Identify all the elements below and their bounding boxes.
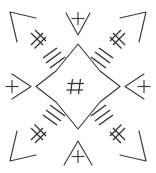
arm-bottom-right (91, 105, 146, 161)
arrowhead-down-right-icon (120, 131, 146, 161)
plus-glyph-right (138, 80, 151, 93)
center-star-enclosure (36, 44, 120, 129)
hatch-group-top-right (91, 48, 113, 68)
hatch-group-bottom-right (91, 105, 113, 125)
plus-glyph-bottom (72, 150, 85, 163)
arrowhead-down-left-icon (10, 131, 36, 161)
plus-glyph-left (6, 80, 19, 93)
arm-top-right (91, 12, 146, 68)
arm-right (125, 74, 151, 99)
arm-top (66, 12, 90, 35)
hatch-group-bottom-left (43, 105, 65, 125)
plus-glyph-top (72, 12, 85, 25)
arm-bottom-left (10, 105, 65, 161)
hatch-group-top-left (43, 48, 65, 68)
rotated-hash-glyph-bottom-left (31, 125, 46, 144)
arm-top-left (10, 12, 65, 68)
rotated-hash-glyph-top-left (31, 30, 46, 49)
glyph-canvas (0, 0, 156, 173)
radial-glyph-figure (0, 0, 156, 173)
arm-left (6, 74, 32, 99)
center-hash-glyph (67, 79, 85, 94)
arrowhead-up-left-icon (10, 12, 36, 42)
arrowhead-up-right-icon (120, 12, 146, 42)
rotated-hash-glyph-top-right (110, 30, 125, 49)
arm-bottom (64, 141, 92, 165)
rotated-hash-glyph-bottom-right (110, 125, 125, 144)
